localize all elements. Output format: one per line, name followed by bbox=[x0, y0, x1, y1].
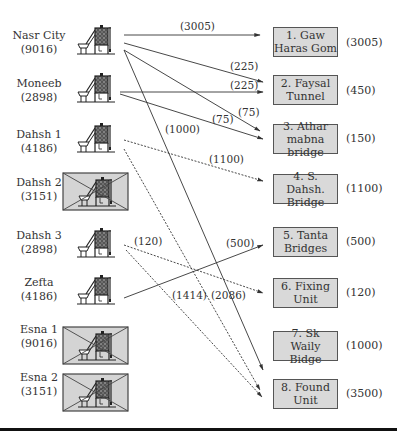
destination-demand: (1000) bbox=[346, 339, 383, 352]
flow-nasr-to-7 bbox=[124, 50, 263, 370]
destination-demand: (1100) bbox=[346, 182, 383, 195]
destination-box-2: 2. FaysalTunnel bbox=[273, 75, 338, 105]
destination-demand: (120) bbox=[346, 286, 376, 299]
destination-box-4: 4. S. Dahsh.Bridge bbox=[273, 174, 338, 204]
flow-label: (1100) bbox=[209, 153, 244, 165]
flow-dahsh3-to-6 bbox=[124, 245, 263, 293]
destination-box-1: 1. GawHaras Gom bbox=[273, 27, 338, 57]
bottom-divider bbox=[0, 428, 397, 431]
flow-label: (225) bbox=[230, 60, 258, 72]
flow-label: (500) bbox=[226, 237, 254, 249]
destination-name: 2. Faysal bbox=[281, 77, 330, 90]
flow-dahsh3-to-8 bbox=[126, 250, 262, 397]
destination-name: 1. Gaw bbox=[274, 29, 337, 42]
flow-label: (75) bbox=[212, 113, 234, 125]
destination-name: 8. Found bbox=[281, 381, 330, 394]
destination-name: Tunnel bbox=[281, 90, 330, 103]
plant-icon-dahsh-3 bbox=[77, 228, 115, 257]
plant-icon-nasr-city bbox=[77, 25, 115, 54]
flow-label: (3005) bbox=[180, 20, 215, 32]
destination-name: 3. Athar bbox=[274, 120, 337, 133]
closed-plant-icon-dahsh-2 bbox=[63, 173, 128, 210]
destination-demand: (3005) bbox=[346, 36, 383, 49]
plant-icon-zefta bbox=[77, 275, 115, 304]
destination-box-8: 8. FoundUnit bbox=[273, 379, 338, 409]
flow-label: (1000) bbox=[165, 123, 200, 135]
flow-label: (2086) bbox=[211, 289, 246, 301]
destination-demand: (3500) bbox=[346, 387, 383, 400]
destination-demand: (150) bbox=[346, 132, 376, 145]
destination-name: Bridges bbox=[283, 242, 328, 255]
destination-name: 6. Fixing bbox=[281, 280, 330, 293]
destination-box-3: 3. Atharmabna bridge bbox=[273, 124, 338, 154]
plant-icon-dahsh-1 bbox=[77, 123, 115, 152]
flow-label: (75) bbox=[238, 106, 260, 118]
flow-label: (120) bbox=[134, 235, 162, 247]
destination-name: Unit bbox=[281, 394, 330, 407]
flow-dahsh1-to-8 bbox=[124, 149, 260, 390]
destination-name: Unit bbox=[281, 293, 330, 306]
destination-name: 4. S. Dahsh. bbox=[274, 170, 337, 196]
flow-diagram: (3005) (225) (225) (75) (75) (1000) (110… bbox=[0, 0, 397, 439]
destination-name: mabna bridge bbox=[274, 133, 337, 159]
flow-label: (225) bbox=[230, 79, 258, 91]
destination-demand: (500) bbox=[346, 235, 376, 248]
destination-box-6: 6. FixingUnit bbox=[273, 278, 338, 308]
destination-name: 7. Sk bbox=[274, 327, 337, 340]
destination-box-7: 7. SkWaily Bidge bbox=[273, 331, 338, 361]
flow-label: (1414) bbox=[172, 289, 207, 301]
destination-name: Bridge bbox=[274, 196, 337, 209]
plant-icon-moneeb bbox=[77, 73, 115, 102]
destination-name: 5. Tanta bbox=[283, 229, 328, 242]
closed-plant-icon-esna-2 bbox=[63, 374, 128, 411]
destination-name: Haras Gom bbox=[274, 42, 337, 55]
destination-name: Waily Bidge bbox=[274, 340, 337, 366]
destination-demand: (450) bbox=[346, 84, 376, 97]
closed-plant-icon-esna-1 bbox=[63, 327, 128, 364]
destination-box-5: 5. TantaBridges bbox=[273, 227, 338, 257]
